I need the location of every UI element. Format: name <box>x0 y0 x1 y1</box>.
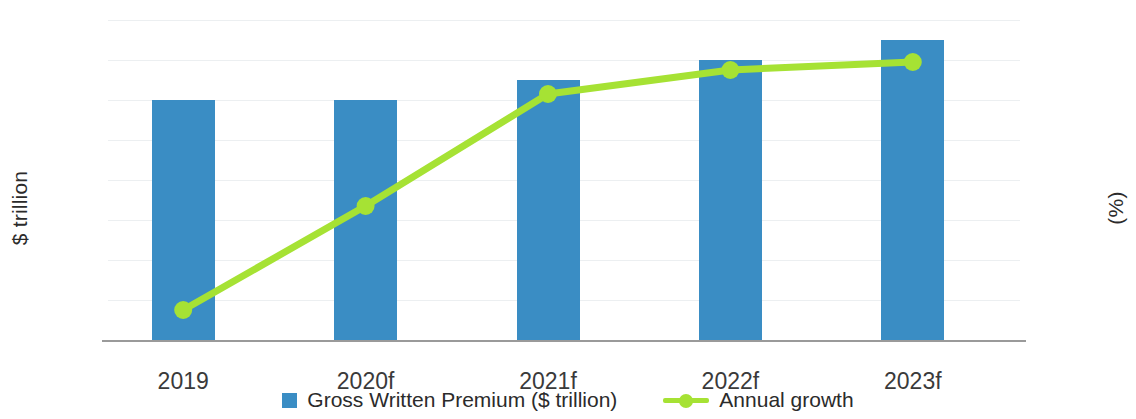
plot-area: 00.20.40.60.811.21.41.6 -101234567 20192… <box>108 20 1020 340</box>
legend-swatch-bar-icon <box>282 393 297 408</box>
legend-item-gross-written-premium[interactable]: Gross Written Premium ($ trillion) <box>282 388 617 412</box>
data-point-marker <box>539 85 557 103</box>
data-point-marker <box>174 301 192 319</box>
data-point-marker <box>721 61 739 79</box>
chart-legend: Gross Written Premium ($ trillion) Annua… <box>0 388 1136 412</box>
legend-label-bar: Gross Written Premium ($ trillion) <box>307 388 617 412</box>
annual-growth-markers <box>174 53 922 319</box>
legend-line-marker-icon <box>663 392 709 408</box>
data-point-marker <box>904 53 922 71</box>
x-axis-line <box>102 340 1026 342</box>
legend-label-line: Annual growth <box>719 388 853 412</box>
chart-container: $ trillion (%) 00.20.40.60.811.21.41.6 -… <box>0 0 1136 419</box>
y-axis-left-title: $ trillion <box>8 128 32 288</box>
legend-item-annual-growth[interactable]: Annual growth <box>663 388 853 412</box>
data-point-marker <box>357 197 375 215</box>
y-axis-right-title: (%) <box>1104 128 1128 288</box>
line-series <box>108 20 1020 340</box>
